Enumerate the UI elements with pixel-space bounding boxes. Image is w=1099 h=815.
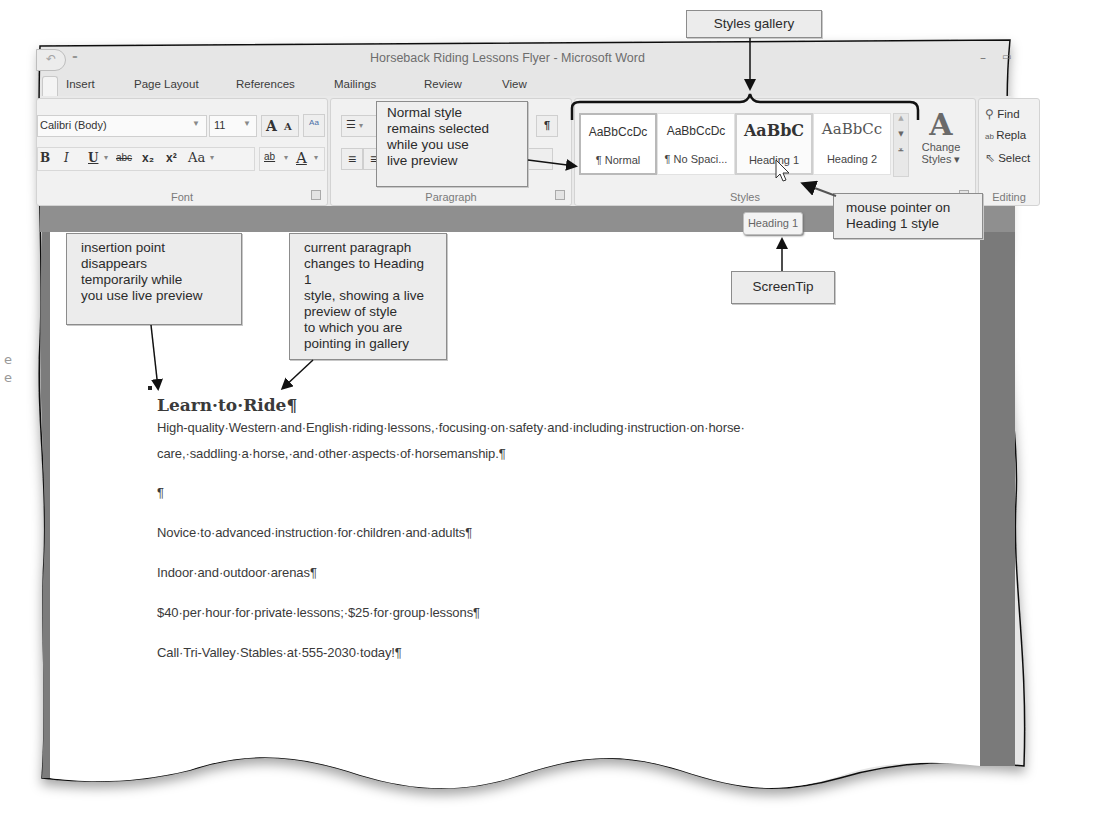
callout-line: to which you are	[304, 320, 432, 336]
restore-button[interactable]: ▭	[1002, 51, 1011, 62]
callout-line: style, showing a live	[304, 288, 432, 304]
chevron-down-icon: ▾	[314, 153, 318, 162]
replace-icon: ab	[985, 132, 996, 141]
callout-line: current paragraph	[304, 240, 432, 256]
style-tile-heading-2[interactable]: AaBbCc Heading 2	[813, 113, 891, 175]
insertion-point	[148, 386, 152, 390]
style-sample: AaBbCc	[814, 120, 890, 138]
superscript-button[interactable]: x²	[166, 151, 177, 165]
style-tile-normal[interactable]: AaBbCcDc ¶ Normal	[579, 113, 657, 175]
editing-group: ⚲ Find ab Repla ⇖ Select Editing	[978, 98, 1040, 206]
font-format-row: B I U ▾ abc x₂ x² Aa ▾	[37, 147, 255, 171]
grow-shrink-font: A A	[261, 115, 299, 137]
callout-line: live preview	[387, 153, 517, 169]
binoculars-icon: ⚲	[985, 108, 997, 120]
gallery-more[interactable]: ⩡	[894, 144, 908, 156]
replace-label: Repla	[996, 129, 1026, 141]
bullets-button[interactable]: ☰ ▾	[341, 115, 377, 137]
bullets-icon: ☰	[346, 118, 356, 130]
change-styles-label: Change	[915, 141, 967, 153]
gallery-scroll-up[interactable]: ▲	[894, 114, 908, 122]
replace-button[interactable]: ab Repla	[985, 129, 1026, 141]
callout-line: Normal style	[387, 105, 517, 121]
select-button[interactable]: ⇖ Select	[985, 151, 1030, 165]
tab-page-layout[interactable]: Page Layout	[134, 78, 199, 90]
subscript-button[interactable]: x₂	[142, 151, 154, 165]
callout-line: mouse pointer on	[846, 200, 970, 216]
font-dialog-launcher[interactable]	[311, 190, 321, 200]
style-name: Heading 2	[814, 153, 890, 165]
quick-access-toolbar: ↶ ⁼	[36, 49, 96, 69]
gallery-scroll-down[interactable]: ▼	[894, 130, 908, 138]
change-case-button[interactable]: Aa	[188, 150, 205, 165]
tab-mailings[interactable]: Mailings	[334, 78, 376, 90]
italic-button[interactable]: I	[64, 151, 69, 165]
shrink-font-icon[interactable]: A	[284, 121, 292, 132]
tab-insert[interactable]: Insert	[66, 78, 95, 90]
screentip: Heading 1	[743, 212, 803, 235]
tab-view[interactable]: View	[502, 78, 527, 90]
paragraph-dialog-launcher[interactable]	[555, 190, 565, 200]
tab-review[interactable]: Review	[424, 78, 462, 90]
callout-line: Heading 1 style	[846, 216, 970, 232]
strikethrough-button[interactable]: abc	[116, 152, 132, 163]
cursor-icon: ⇖	[985, 152, 998, 164]
font-size-dropdown[interactable]: 11 ▼	[209, 115, 257, 137]
callout-screentip: ScreenTip	[731, 271, 835, 304]
tab-references[interactable]: References	[236, 78, 295, 90]
undo-icon: ↶	[46, 52, 56, 66]
document-line[interactable]: ¶	[157, 485, 164, 500]
customize-qat-icon[interactable]: ⁼	[72, 52, 78, 65]
style-name: Heading 1	[737, 154, 811, 166]
font-name-dropdown[interactable]: Calibri (Body) ▼	[37, 115, 207, 137]
margin-glyph: e	[4, 370, 12, 385]
chevron-down-icon: ▾	[104, 153, 108, 162]
chevron-down-icon: ▼	[243, 119, 251, 128]
callout-styles-gallery: Styles gallery	[686, 10, 822, 38]
style-tile-heading-1[interactable]: AaBbC Heading 1	[735, 113, 813, 175]
callout-line: you use live preview	[81, 288, 227, 304]
clear-formatting-icon[interactable]: Aa	[303, 114, 325, 137]
document-line[interactable]: High-quality·Western·and·English·riding·…	[157, 420, 745, 435]
gallery-scroll: ▲ ▼ ⩡	[893, 113, 909, 177]
document-line[interactable]: care,·saddling·a·horse,·and·other·aspect…	[157, 446, 506, 461]
callout-line: while you use	[387, 137, 517, 153]
callout-line: temporarily while	[81, 272, 227, 288]
document-line[interactable]: Indoor·and·outdoor·arenas¶	[157, 565, 317, 580]
change-styles-button[interactable]: A Change Styles ▾	[915, 109, 967, 189]
window-title: Horseback Riding Lessons Flyer - Microso…	[370, 51, 645, 65]
grow-font-icon[interactable]: A	[266, 118, 277, 134]
underline-button[interactable]: U	[88, 151, 98, 165]
margin-glyph: e	[4, 352, 12, 367]
callout-insertion-point: insertion point disappears temporarily w…	[66, 233, 242, 325]
bold-button[interactable]: B	[40, 151, 50, 165]
change-styles-label: Styles ▾	[915, 153, 967, 166]
show-hide-button[interactable]: ¶	[536, 115, 558, 137]
callout-mouse-pointer: mouse pointer on Heading 1 style	[833, 193, 983, 239]
paragraph-group-label: Paragraph	[331, 191, 571, 203]
document-line[interactable]: Novice·to·advanced·instruction·for·child…	[157, 525, 472, 540]
callout-line: pointing in gallery	[304, 336, 432, 352]
callout-line: remains selected	[387, 121, 517, 137]
font-group-label: Font	[37, 191, 327, 203]
align-left-button[interactable]: ≡	[341, 148, 363, 170]
style-tile-no-spacing[interactable]: AaBbCcDc ¶ No Spaci...	[657, 113, 735, 175]
style-sample: AaBbCcDc	[581, 125, 655, 139]
undo-button[interactable]: ↶	[36, 49, 66, 71]
highlight-button[interactable]: ab	[264, 151, 275, 162]
style-name: ¶ Normal	[581, 154, 655, 166]
document-line[interactable]: $40·per·hour·for·private·lessons;·$25·fo…	[157, 605, 480, 620]
styles-group: AaBbCcDc ¶ Normal AaBbCcDc ¶ No Spaci...…	[574, 98, 976, 206]
minimize-button[interactable]: –	[980, 51, 986, 65]
font-color-button[interactable]: A	[296, 149, 307, 167]
find-button[interactable]: ⚲ Find	[985, 107, 1020, 121]
callout-line: changes to Heading 1	[304, 256, 432, 288]
callout-line: preview of style	[304, 304, 432, 320]
document-right-gutter	[980, 232, 1015, 766]
change-styles-icon: A	[915, 109, 967, 141]
title-bar: ↶ ⁼ Horseback Riding Lessons Flyer - Mic…	[40, 47, 1010, 71]
color-row: ab ▾ A ▾	[259, 147, 325, 171]
document-heading[interactable]: Learn·to·Ride¶	[157, 395, 297, 415]
document-line[interactable]: Call·Tri-Valley·Stables·at·555-2030·toda…	[157, 645, 402, 660]
chevron-down-icon: ▼	[192, 119, 200, 128]
